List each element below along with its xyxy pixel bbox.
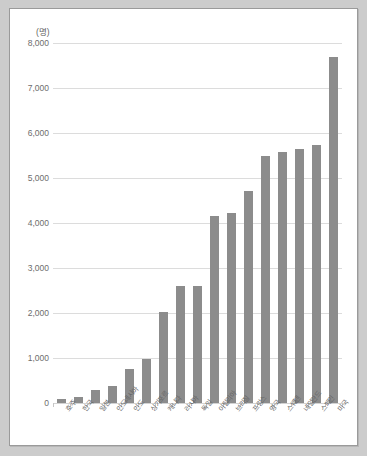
y-tick-label: 5,000 (28, 173, 49, 183)
bar (210, 216, 219, 403)
y-tick-label: 0 (44, 398, 49, 408)
bar (312, 145, 321, 403)
page-frame: (명) 8,0007,0006,0005,0004,0003,0002,0001… (0, 0, 367, 456)
bar (193, 286, 202, 403)
x-axis-labels: 호주한국일본인도네시아인도싱가포르캐나다러시아독일이탈리아브라질프랑스영국스웨덴… (53, 407, 342, 447)
y-tick-label: 7,000 (28, 83, 49, 93)
y-tick-label: 3,000 (28, 263, 49, 273)
bar (176, 286, 185, 403)
bar (329, 57, 338, 403)
y-tick-label: 8,000 (28, 38, 49, 48)
y-tick-label: 1,000 (28, 353, 49, 363)
y-tick-label: 4,000 (28, 218, 49, 228)
bar (278, 152, 287, 403)
y-tick-label: 2,000 (28, 308, 49, 318)
y-axis-unit-label: (명) (36, 25, 50, 37)
bar (261, 156, 270, 403)
bar (295, 149, 304, 403)
bar (244, 191, 253, 403)
bar (227, 213, 236, 403)
chart-card: (명) 8,0007,0006,0005,0004,0003,0002,0001… (9, 8, 358, 446)
bar (142, 359, 151, 403)
y-axis-labels: 8,0007,0006,0005,0004,0003,0002,0001,000… (18, 43, 49, 403)
y-tick-label: 6,000 (28, 128, 49, 138)
bars-layer (53, 43, 342, 403)
